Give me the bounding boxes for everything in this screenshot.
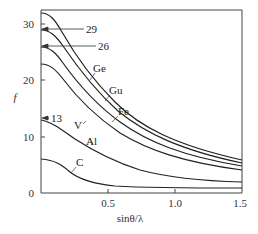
y-tick-0: 0 [29,187,35,199]
y-tick-20: 20 [23,74,35,86]
y-tick-30: 30 [23,18,35,30]
label-c: C [76,156,83,168]
curve-ge [41,13,242,160]
label-v: V [74,119,82,131]
curve-gu [41,30,242,163]
x-axis-ticks: 0.5 1.0 1.5 [101,189,247,209]
y-tick-10: 10 [23,131,35,143]
curve-v [41,64,242,170]
scattering-factor-chart: 0 10 20 30 0.5 1.0 1.5 sinθ/λ f 29 26 13 [0,0,258,234]
label-ge: Ge [93,62,106,74]
annotations [42,27,96,120]
x-tick-1.5: 1.5 [233,197,247,209]
y-axis-ticks: 0 10 20 30 [23,18,45,199]
x-tick-0.5: 0.5 [101,197,115,209]
y-axis-title: f [13,91,18,103]
curves [41,13,242,188]
curve-fe [41,47,242,166]
annotation-13: 13 [51,112,63,124]
x-axis-title: sinθ/λ [117,212,144,224]
label-gu: Gu [109,84,123,96]
annotation-26: 26 [98,40,110,52]
x-tick-1.0: 1.0 [168,197,182,209]
annotation-29: 29 [86,23,98,35]
label-al: Al [86,135,97,147]
label-fe: Fe [118,105,129,117]
curve-c [41,159,242,188]
